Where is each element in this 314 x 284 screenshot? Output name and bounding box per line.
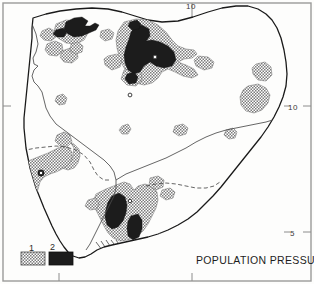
- zone-class1-nw-e: [70, 42, 83, 54]
- zone-class1-nw-b: [45, 41, 63, 56]
- legend-group: [21, 252, 73, 265]
- zone-class1-small-b: [119, 124, 131, 134]
- latitude-label-10: 10: [288, 103, 298, 112]
- zone-class1-mandara-n: [252, 62, 272, 81]
- zone-class1-se-e: [160, 188, 175, 200]
- settlement-marker-ibadan: [39, 171, 42, 174]
- legend-label-1: 1: [29, 243, 34, 253]
- zone-class1-kano-sw: [104, 54, 122, 70]
- latitude-label-5: 5: [290, 229, 295, 238]
- zone-class2-sw-dot-b: [27, 193, 33, 199]
- legend-swatch-1: [21, 252, 45, 265]
- map-canvas: [0, 0, 314, 284]
- longitude-label-10: 10: [186, 2, 196, 11]
- settlement-marker-kano: [153, 55, 157, 59]
- zone-class1-mandara-s: [240, 84, 270, 113]
- legend-swatch-2: [49, 252, 73, 265]
- zone-class1-small-c: [173, 124, 188, 136]
- zone-class1-nw-f: [100, 29, 114, 41]
- zone-class1-kano-tail-e: [194, 56, 214, 70]
- population-pressure-map: 10 10 5 1 2 POPULATION PRESSURE: [0, 0, 314, 284]
- settlement-marker-se: [128, 199, 131, 202]
- legend-label-2: 2: [50, 242, 55, 252]
- settlement-marker-mid: [128, 93, 132, 97]
- zone-class1-small-a: [55, 94, 67, 105]
- river-benue: [116, 119, 276, 180]
- zone-class2-nw-core: [64, 17, 99, 37]
- map-title: POPULATION PRESSURE: [196, 254, 314, 266]
